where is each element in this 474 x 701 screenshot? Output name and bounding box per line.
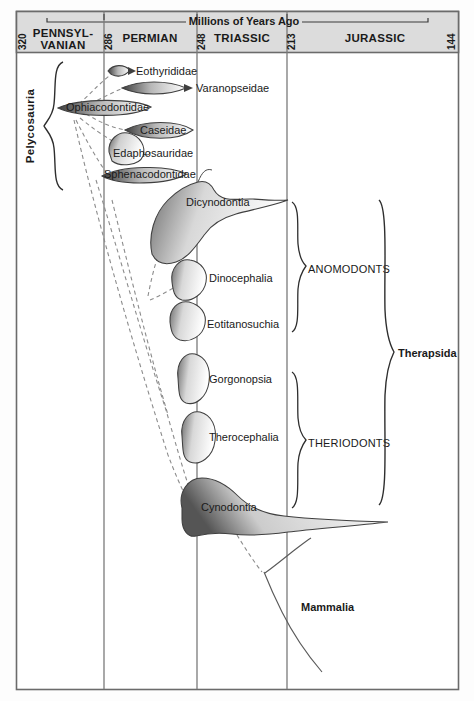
bracket-label-anomodonts: ANOMODONTS <box>308 263 390 275</box>
tick-label-144: 144 <box>446 33 457 50</box>
bracket-label-therapsida: Therapsida <box>398 347 458 359</box>
period-label-permian: PERMIAN <box>122 32 177 44</box>
period-label-triassic: TRIASSIC <box>214 32 270 44</box>
tick-label-320: 320 <box>17 33 28 50</box>
taxon-label-eothyrididae: Eothyrididae <box>136 65 197 77</box>
bracket-label-pelycosauria: Pelycosauria <box>24 88 36 163</box>
period-label-jurassic: JURASSIC <box>345 32 406 44</box>
tick-label-248: 248 <box>196 33 207 50</box>
diagram-canvas: Millions of Years Ago 320 286 248 213 14… <box>0 0 474 701</box>
taxon-label-edaphosauridae: Edaphosauridae <box>113 147 193 159</box>
taxon-label-varanopseidae: Varanopseidae <box>196 82 269 94</box>
bracket-label-theriodonts: THERIODONTS <box>308 437 390 449</box>
taxon-label-dinocephalia: Dinocephalia <box>209 272 273 284</box>
taxon-label-eotitanosuchia: Eotitanosuchia <box>207 318 280 330</box>
taxon-label-sphenacodontidae: Sphenacodontidae <box>104 168 196 180</box>
taxon-label-cynodontia: Cynodontia <box>201 501 258 513</box>
tick-label-213: 213 <box>286 33 297 50</box>
taxon-label-caseidae: Caseidae <box>140 124 186 136</box>
taxon-label-dicynodontia: Dicynodontia <box>186 196 250 208</box>
taxon-label-therocephalia: Therocephalia <box>209 431 280 443</box>
period-label-pennsylvanian-line2: VANIAN <box>40 39 85 51</box>
taxon-label-gorgonopsia: Gorgonopsia <box>209 373 273 385</box>
taxon-label-mammalia: Mammalia <box>301 601 355 613</box>
period-label-pennsylvanian-line1: PENNSYL- <box>33 27 94 39</box>
taxon-label-ophiacodontidae: Ophiacodontidae <box>66 101 149 113</box>
timescale-axis-title: Millions of Years Ago <box>189 15 300 27</box>
tick-label-286: 286 <box>103 33 114 50</box>
